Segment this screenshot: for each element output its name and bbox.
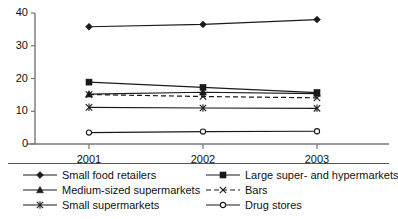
data-point-diamond [37,172,44,179]
legend-divider [8,163,389,164]
legend-marker-asterisk [22,199,58,211]
legend-marker-square [205,169,241,181]
data-point-diamond [86,23,93,30]
legend-item-label: Large super- and hypermarkets [245,169,398,181]
legend-item-label: Drug stores [245,199,302,211]
plot-svg [0,0,397,160]
legend-marker-diamond [22,169,58,181]
legend-marker-cross [205,184,241,196]
legend-column-left: Small food retailersMedium-sized superma… [22,168,200,213]
chart-legend: Small food retailersMedium-sized superma… [0,160,397,219]
data-point-diamond [314,16,321,23]
legend-item[interactable]: Drug stores [205,198,398,212]
legend-item[interactable]: Large super- and hypermarkets [205,168,398,182]
data-point-diamond [200,21,207,28]
legend-item[interactable]: Small supermarkets [22,198,200,212]
legend-item-label: Small food retailers [62,169,156,181]
y-axis-tick-label: 40 [2,7,28,18]
series-4 [86,104,320,113]
legend-item[interactable]: Medium-sized supermarkets [22,183,200,197]
legend-item-label: Medium-sized supermarkets [62,184,200,196]
y-axis-tick-label: 20 [2,73,28,84]
data-point-circle-open [220,202,225,207]
legend-marker-triangle [22,184,58,196]
legend-marker-circle-open [205,199,241,211]
series-0 [86,16,321,30]
data-point-square [86,79,92,85]
data-point-square [220,172,226,178]
legend-item-label: Small supermarkets [62,199,159,211]
legend-column-right: Large super- and hypermarketsBarsDrug st… [205,168,398,213]
legend-item[interactable]: Small food retailers [22,168,200,182]
legend-item[interactable]: Bars [205,183,398,197]
data-point-circle-open [200,129,205,134]
legend-item-label: Bars [245,184,268,196]
y-axis-tick-label: 0 [2,138,28,149]
y-axis-tick-label: 30 [2,40,28,51]
data-point-circle-open [86,130,91,135]
series-5 [86,129,319,136]
plot-area: 010203040 200120022003 [0,0,397,160]
data-point-circle-open [314,129,319,134]
y-axis-tick-label: 10 [2,105,28,116]
